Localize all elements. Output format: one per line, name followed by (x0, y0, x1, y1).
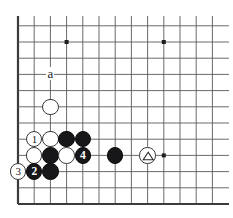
goban-grid (0, 0, 233, 218)
stone-move-number: 2 (32, 166, 37, 178)
triangle-icon (140, 148, 156, 164)
point-label-a: a (46, 67, 54, 80)
stone-black (58, 131, 74, 147)
stone-white (58, 147, 74, 163)
stone-black-4: 4 (75, 147, 91, 163)
stone-white-3: 3 (10, 163, 26, 179)
stone-move-number: 1 (32, 134, 37, 145)
stone-black (42, 147, 58, 163)
stone-white (42, 131, 58, 147)
stone-move-number: 3 (15, 166, 20, 177)
go-diagram: 1432 a (0, 0, 233, 218)
stone-white (26, 147, 42, 163)
stone-black (42, 163, 58, 179)
stone-white (139, 147, 155, 163)
stone-move-number: 4 (80, 150, 85, 162)
stone-white (42, 99, 58, 115)
stone-black-2: 2 (26, 163, 42, 179)
stone-black (107, 147, 123, 163)
